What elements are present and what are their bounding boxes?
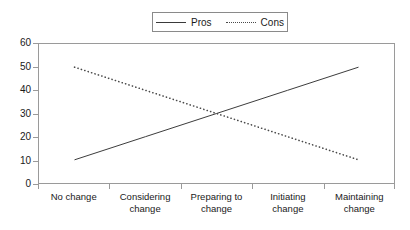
series-canvas <box>39 44 394 183</box>
y-tick-label: 50 <box>0 62 31 72</box>
y-tick-label: 30 <box>0 109 31 119</box>
y-tick-label: 60 <box>0 38 31 48</box>
y-tick-label: 10 <box>0 156 31 166</box>
y-tick-label: 40 <box>0 85 31 95</box>
x-tick-label: Maintainingchange <box>324 191 395 214</box>
y-axis-tick-labels: 0102030405060 <box>0 43 31 184</box>
x-tick-mark <box>38 184 39 189</box>
plot-area <box>38 43 395 184</box>
x-tick-mark <box>252 184 253 189</box>
line-chart-figure: Pros Cons 0102030405060 No changeConside… <box>0 0 410 230</box>
dotted-line-swatch <box>226 19 256 26</box>
x-tick-label: Initiatingchange <box>252 191 323 214</box>
x-tick-mark <box>324 184 325 189</box>
x-tick-label: Preparing tochange <box>181 191 252 214</box>
y-tick-label: 0 <box>0 179 31 189</box>
x-tick-mark <box>181 184 182 189</box>
x-axis-tick-marks <box>38 184 395 189</box>
x-tick-mark <box>394 184 395 189</box>
solid-line-swatch <box>156 19 186 26</box>
x-tick-label: Consideringchange <box>109 191 180 214</box>
legend-entry-pros: Pros <box>156 17 212 28</box>
x-tick-mark <box>109 184 110 189</box>
legend-entry-cons: Cons <box>226 17 284 28</box>
chart-legend: Pros Cons <box>152 12 288 32</box>
legend-label-pros: Pros <box>191 17 212 28</box>
legend-label-cons: Cons <box>261 17 284 28</box>
x-axis-tick-labels: No changeConsideringchangePreparing toch… <box>38 191 395 221</box>
page-text-fragment <box>18 222 398 230</box>
y-tick-label: 20 <box>0 132 31 142</box>
x-tick-label: No change <box>38 191 109 203</box>
